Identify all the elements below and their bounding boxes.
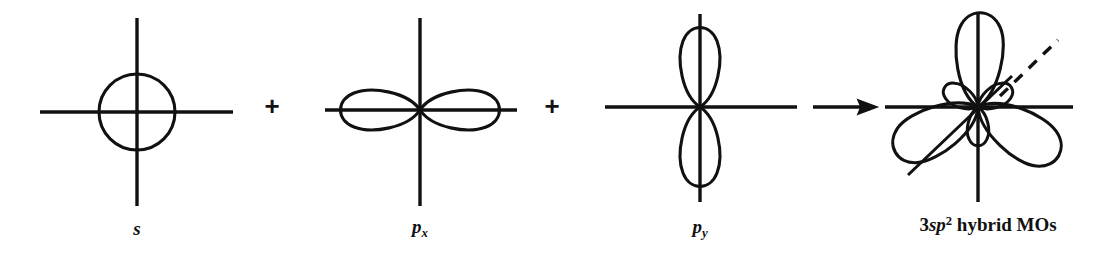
- py-orbital-group: [605, 14, 797, 202]
- s-orbital-group: [40, 18, 233, 206]
- plus-operator-2: +: [538, 93, 566, 119]
- hybrid-major-lobe-down-right: [884, 85, 989, 173]
- hybrid-orbital-group: [884, 13, 1073, 202]
- arrow-head: [858, 100, 877, 114]
- hybrid-major-lobe-down-left: [965, 88, 1070, 176]
- label-px-orbital: px: [380, 217, 460, 240]
- label-py-orbital: py: [660, 217, 740, 240]
- px-orbital-group: [325, 18, 517, 206]
- reaction-arrow-group: [813, 100, 877, 114]
- label-s-orbital: s: [97, 219, 177, 238]
- plus-operator-1: +: [258, 93, 286, 119]
- figure-canvas: + + s px py 3sp2 hybrid MOs: [0, 0, 1106, 262]
- hybrid-z-axis-dashed-line: [1000, 40, 1058, 96]
- label-hybrid-orbital: 3sp2 hybrid MOs: [888, 215, 1088, 234]
